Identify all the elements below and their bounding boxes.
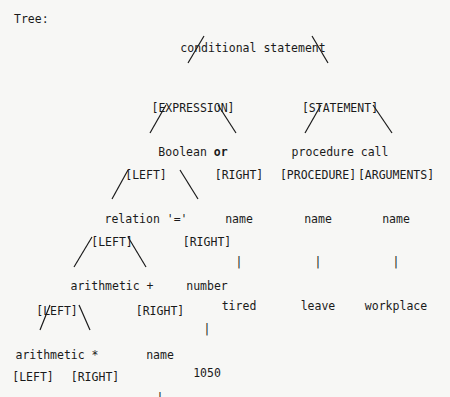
node-role: [STATEMENT] xyxy=(292,101,389,116)
node-right-minute: [RIGHT] name | minute xyxy=(136,275,184,397)
node-arguments: [ARGUMENTS] name | workplace xyxy=(358,139,434,328)
tree-caption: Tree: xyxy=(14,12,49,26)
connector: | xyxy=(136,391,184,397)
node-role: [RIGHT] xyxy=(183,235,231,250)
node-role: [LEFT] xyxy=(70,235,153,250)
node-role: [RIGHT] xyxy=(136,304,184,319)
node-value: 1050 xyxy=(183,366,231,381)
node-type: name xyxy=(280,212,356,227)
node-role: [LEFT] xyxy=(104,168,187,183)
node-procedure: [PROCEDURE] name | leave xyxy=(280,139,356,328)
node-type: number xyxy=(183,279,231,294)
connector: | xyxy=(280,255,356,270)
node-role: [RIGHT] xyxy=(71,370,119,385)
node-role: [LEFT] xyxy=(15,304,98,319)
node-role: [RIGHT] xyxy=(215,168,263,183)
node-role: [EXPRESSION] xyxy=(151,101,234,116)
node-type: name xyxy=(358,212,434,227)
node-value: workplace xyxy=(358,299,434,314)
node-right-number-60: [RIGHT] number | 60 xyxy=(71,341,119,397)
node-role: [PROCEDURE] xyxy=(280,168,356,183)
connector: | xyxy=(358,255,434,270)
connector: | xyxy=(183,322,231,337)
node-right-number-1050: [RIGHT] number | 1050 xyxy=(183,206,231,395)
node-root-label: conditional statement xyxy=(180,41,325,56)
node-value: leave xyxy=(280,299,356,314)
node-role: [ARGUMENTS] xyxy=(358,168,434,183)
node-root: conditional statement xyxy=(180,12,325,70)
node-type: name xyxy=(136,348,184,363)
node-left-hour: [LEFT] name | hour xyxy=(12,341,54,397)
node-role: [LEFT] xyxy=(12,370,54,385)
